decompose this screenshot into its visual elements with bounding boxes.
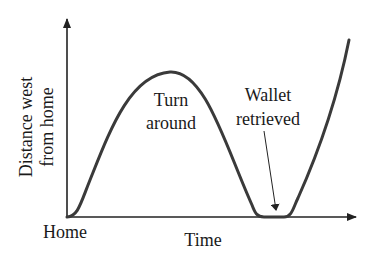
annotation-wallet-line2: retrieved <box>236 109 300 129</box>
x-axis-label: Time <box>184 230 221 250</box>
annotation-turn-line1: Turn <box>154 90 188 110</box>
origin-label: Home <box>43 222 87 242</box>
annotation-turn-line2: around <box>146 113 196 133</box>
y-axis-label-line2: from home <box>37 87 57 166</box>
annotation-wallet-line1: Wallet <box>245 85 292 105</box>
distance-time-chart: Distance west from home Home Time Turn a… <box>0 0 373 254</box>
y-axis-label-line1: Distance west <box>16 77 36 177</box>
distance-curve <box>67 40 349 217</box>
wallet-arrow <box>264 131 276 210</box>
